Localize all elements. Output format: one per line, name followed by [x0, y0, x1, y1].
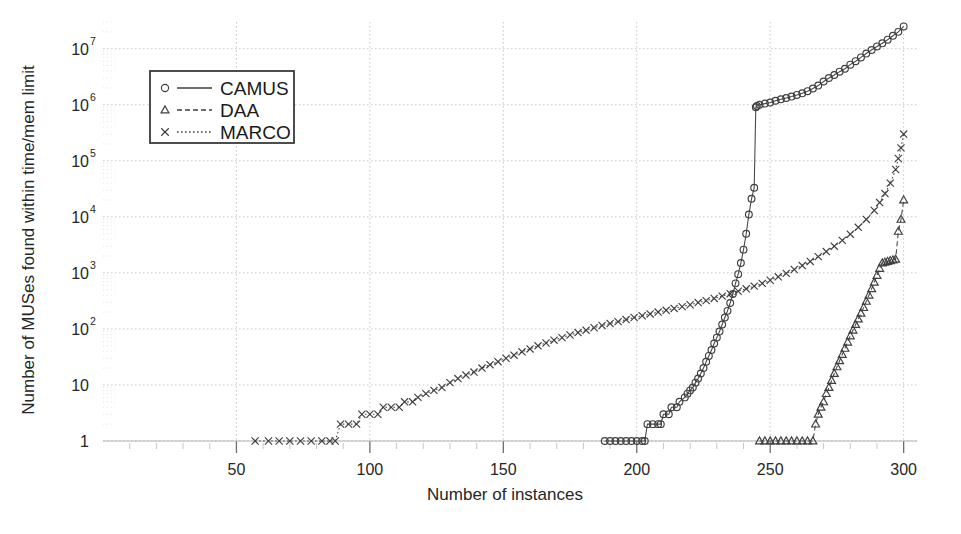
- y-tick-label: 10: [71, 97, 89, 114]
- y-tick-label: 10: [71, 321, 89, 338]
- chart-legend: CAMUSDAAMARCO: [150, 71, 294, 143]
- x-tick-label: 100: [357, 461, 384, 478]
- y-tick-exponent: 4: [90, 203, 96, 215]
- y-tick-exponent: 2: [90, 315, 96, 327]
- y-tick-exponent: 3: [90, 259, 96, 271]
- chart-figure: 11010210310410510610750100150200250300 C…: [0, 0, 961, 534]
- y-tick-label: 10: [71, 265, 89, 282]
- y-axis-title: Number of MUSes found within time/mem li…: [19, 65, 38, 415]
- legend-label: MARCO: [220, 122, 291, 143]
- x-tick-label: 250: [757, 461, 784, 478]
- chart-canvas: 11010210310410510610750100150200250300 C…: [0, 0, 961, 534]
- chart-background: [0, 0, 961, 534]
- y-tick-label: 1: [80, 433, 89, 450]
- y-tick-label: 10: [71, 153, 89, 170]
- x-tick-label: 50: [228, 461, 246, 478]
- y-tick-exponent: 6: [90, 91, 96, 103]
- y-tick-label: 10: [71, 209, 89, 226]
- y-tick-exponent: 7: [90, 35, 96, 47]
- x-tick-label: 200: [623, 461, 650, 478]
- y-tick-exponent: 5: [90, 147, 96, 159]
- y-tick-label: 10: [71, 377, 89, 394]
- x-tick-label: 300: [890, 461, 917, 478]
- y-tick-label: 10: [71, 41, 89, 58]
- legend-label: CAMUS: [220, 78, 289, 99]
- x-tick-label: 150: [490, 461, 517, 478]
- x-axis-title: Number of instances: [427, 485, 583, 504]
- legend-label: DAA: [220, 100, 259, 121]
